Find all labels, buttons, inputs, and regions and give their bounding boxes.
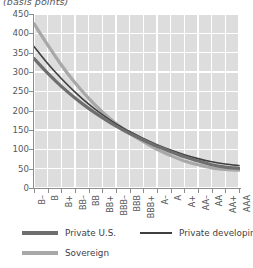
y-axis-tick-label: 100	[2, 144, 29, 154]
x-axis-tick-label: B–	[38, 195, 47, 205]
x-axis-tick	[34, 189, 35, 193]
y-axis-tick	[29, 53, 33, 54]
series-line	[34, 46, 239, 165]
y-axis-tick-label: 450	[2, 9, 29, 19]
x-axis-line	[33, 188, 241, 189]
x-axis-tick-label: AA+	[229, 195, 238, 213]
y-axis-tick-label: 300	[2, 67, 29, 77]
legend-item[interactable]: Sovereign	[22, 248, 109, 258]
chart-legend: Private U.S.Private developingSovereign	[0, 224, 253, 268]
y-axis-tick-label: 0	[2, 183, 29, 193]
x-axis-tick	[116, 189, 117, 193]
y-axis-tick	[29, 169, 33, 170]
x-axis-tick-label: BB–	[79, 195, 88, 210]
x-axis-tick-label: A+	[188, 195, 197, 207]
y-axis-tick	[29, 130, 33, 131]
x-axis-tick	[143, 189, 144, 193]
x-axis-tick-label: BBB+	[147, 195, 156, 218]
legend-label: Private U.S.	[65, 228, 116, 238]
y-axis-tick	[29, 188, 33, 189]
y-axis-tick-label: 150	[2, 125, 29, 135]
x-axis-tick-label: BB	[92, 195, 101, 206]
y-axis-tick-label: 200	[2, 106, 29, 116]
x-axis-tick	[171, 189, 172, 193]
x-axis-tick	[89, 189, 90, 193]
x-axis-tick	[75, 189, 76, 193]
y-axis-tick	[29, 72, 33, 73]
y-axis-tick	[29, 91, 33, 92]
x-axis-tick	[239, 189, 240, 193]
y-axis-tick-label: 50	[2, 164, 29, 174]
x-axis-tick	[212, 189, 213, 193]
x-axis-tick-label: AA	[215, 195, 224, 206]
x-axis-tick	[198, 189, 199, 193]
y-axis-tick-label: 400	[2, 28, 29, 38]
y-axis-line	[33, 14, 34, 189]
x-axis-tick-label: AA–	[202, 195, 211, 210]
x-axis-tick-label: BBB	[133, 195, 142, 211]
series-line	[34, 58, 239, 168]
x-axis-tick	[102, 189, 103, 193]
x-axis-tick-label: A	[174, 195, 183, 200]
plot-area	[33, 14, 240, 188]
spread-by-credit-rating-chart: (basis points) 4504003503002502001501005…	[0, 0, 253, 268]
y-axis-tick	[29, 111, 33, 112]
y-axis-tick-label: 350	[2, 48, 29, 58]
x-axis-tick-label: A–	[161, 195, 170, 204]
y-axis-tick	[29, 14, 33, 15]
legend-item[interactable]: Private U.S.	[22, 228, 116, 238]
x-axis-tick	[184, 189, 185, 193]
legend-line-swatch	[140, 232, 172, 234]
x-axis-tick	[48, 189, 49, 193]
x-axis-tick	[225, 189, 226, 193]
y-axis-tick-label: 250	[2, 86, 29, 96]
x-axis-tick	[61, 189, 62, 193]
x-axis-tick-label: BB+	[106, 195, 115, 213]
x-axis-tick	[157, 189, 158, 193]
x-axis-tick	[130, 189, 131, 193]
x-axis-tick-label: B	[51, 195, 60, 201]
legend-line-swatch	[22, 231, 58, 234]
legend-item[interactable]: Private developing	[140, 228, 253, 238]
x-axis-tick-label: AAA	[243, 195, 252, 212]
legend-label: Sovereign	[65, 248, 109, 258]
y-axis-tick	[29, 149, 33, 150]
x-axis-tick-label: BBB–	[120, 195, 129, 215]
series-lines	[33, 14, 240, 188]
legend-line-swatch	[22, 251, 58, 254]
series-line	[34, 24, 239, 171]
x-axis-tick-label: B+	[65, 195, 74, 207]
legend-label: Private developing	[179, 228, 253, 238]
y-axis-tick	[29, 33, 33, 34]
